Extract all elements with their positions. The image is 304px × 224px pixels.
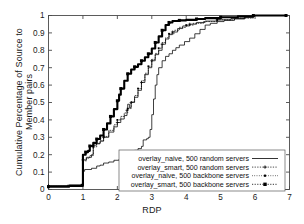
svg-text:7: 7 — [287, 193, 292, 202]
legend-label-3: overlay_smart, 500 backbone servers — [131, 181, 250, 189]
svg-text:0.3: 0.3 — [33, 133, 45, 142]
svg-text:0: 0 — [46, 193, 51, 202]
svg-text:0.2: 0.2 — [33, 151, 45, 160]
svg-text:0.6: 0.6 — [33, 81, 45, 90]
legend-label-0: overlay_naive, 500 random servers — [138, 155, 249, 163]
svg-text:2: 2 — [115, 193, 120, 202]
chart-figure: 0123456700.10.20.30.40.50.60.70.80.91 ov… — [0, 0, 304, 224]
svg-text:0.9: 0.9 — [33, 29, 45, 38]
svg-text:1: 1 — [40, 11, 45, 20]
svg-text:0: 0 — [40, 185, 45, 194]
svg-text:0.5: 0.5 — [33, 98, 45, 107]
svg-text:0.7: 0.7 — [33, 64, 45, 73]
legend-label-1: overlay_smart, 500 random servers — [137, 164, 249, 172]
svg-text:4: 4 — [184, 193, 189, 202]
svg-text:5: 5 — [218, 193, 223, 202]
chart-legend: overlay_naive, 500 random serversoverlay… — [119, 150, 285, 191]
svg-text:3: 3 — [150, 193, 155, 202]
x-axis-title: RDP — [0, 205, 304, 215]
y-axis-title: Cumulative Percentage of Source to Membe… — [14, 17, 34, 187]
svg-text:0.8: 0.8 — [33, 46, 45, 55]
legend-label-2: overlay_naive, 500 backbone servers — [131, 172, 249, 180]
svg-text:0.1: 0.1 — [33, 168, 45, 177]
svg-text:6: 6 — [253, 193, 258, 202]
cdf-plot: 0123456700.10.20.30.40.50.60.70.80.91 ov… — [0, 0, 304, 224]
svg-text:1: 1 — [81, 193, 86, 202]
svg-text:0.4: 0.4 — [33, 116, 45, 125]
